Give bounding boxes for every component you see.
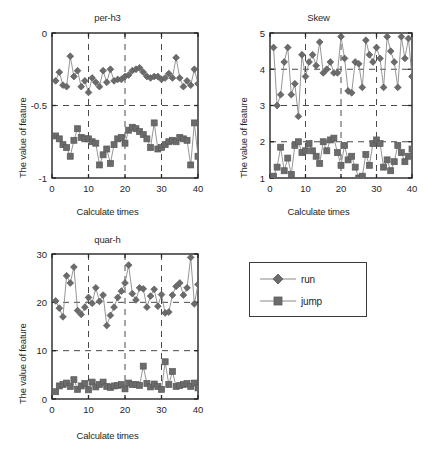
x-tick-label: 40 [193,183,204,194]
diamond-marker [52,297,59,304]
x-tick-label: 40 [407,183,418,194]
chart-panel-quar-h: quar-h The value of feature 010203040010… [0,232,215,450]
square-marker [169,368,175,374]
square-marker [281,168,287,174]
diamond-marker [313,62,320,69]
square-marker [191,120,197,126]
diamond-marker [195,80,202,87]
square-marker [184,137,190,143]
x-tick-label: 10 [300,183,311,194]
figure-container: per-h3 The value of feature 0102030400-0… [0,0,425,458]
diamond-marker [180,83,187,90]
y-tick-label: 30 [36,249,47,260]
square-marker [366,162,372,168]
square-marker [195,153,201,159]
diamond-marker [71,264,78,271]
diamond-marker [103,79,110,86]
square-marker [166,382,172,388]
diamond-marker [125,262,132,269]
square-marker [122,386,128,392]
y-tick-label: -0.5 [31,100,47,111]
square-marker [303,148,309,154]
diamond-marker [284,44,291,51]
diamond-marker [151,286,158,293]
x-axis-label-skew: Calculate times [212,206,425,217]
diamond-marker [302,73,309,80]
diamond-marker [366,51,373,58]
diamond-marker [341,55,348,62]
x-tick-label: 0 [49,404,54,415]
diamond-marker [144,304,151,311]
diamond-marker [380,84,387,91]
square-marker [53,389,59,395]
chart-panel-skew: Skew The value of feature 01020304012345… [212,8,425,226]
diamond-marker [402,55,409,62]
square-marker [122,140,128,146]
diamond-marker [78,83,85,90]
square-marker [151,120,157,126]
plot-area-skew: 01020304012345 [212,8,425,226]
square-marker [71,137,77,143]
diamond-marker [60,313,67,320]
square-marker [148,145,154,151]
legend-entry-run: run [258,272,315,286]
square-marker [317,161,323,167]
diamond-marker [118,288,125,295]
diamond-marker [281,59,288,66]
square-marker [75,126,81,132]
square-marker [352,164,358,170]
series-group [270,33,415,181]
square-marker [363,151,369,157]
diamond-marker [405,35,412,42]
square-marker [100,152,106,158]
square-marker [93,140,99,146]
diamond-marker [169,292,176,299]
square-marker [64,145,70,151]
x-tick-label: 10 [83,404,94,415]
square-marker [388,168,394,174]
y-tick-label: 10 [36,345,47,356]
diamond-marker [63,272,70,279]
square-marker [395,142,401,148]
series-group [52,254,201,395]
diamond-marker [270,44,277,51]
diamond-marker [359,84,366,91]
y-tick-label: 4 [260,64,265,75]
x-axis-label-quar-h: Calculate times [0,430,215,441]
square-marker [159,386,165,392]
legend-entry-jump: jump [258,294,322,308]
x-tick-label: 20 [120,404,131,415]
diamond-marker [384,33,391,40]
x-tick-label: 10 [83,183,94,194]
square-marker [140,363,146,369]
square-marker [338,162,344,168]
diamond-marker [299,51,306,58]
square-marker [118,134,124,140]
diamond-marker [67,280,74,287]
y-tick-label: -1 [39,173,47,184]
diamond-marker [114,294,121,301]
y-tick-label: 0 [42,394,47,405]
series-legend: run jump [249,262,367,317]
square-marker [137,382,143,388]
diamond-marker [316,39,323,46]
square-marker [381,164,387,170]
diamond-marker [154,303,161,310]
square-marker [342,142,348,148]
diamond-marker [85,294,92,301]
diamond-marker [122,280,129,287]
diamond-marker [277,91,284,98]
y-tick-label: 0 [42,28,47,39]
diamond-marker [81,304,88,311]
diamond-marker [89,300,96,307]
diamond-marker [391,59,398,66]
diamond-marker [100,292,107,299]
square-marker [96,162,102,168]
diamond-marker [309,51,316,58]
square-marker [324,148,330,154]
y-tick-label: 1 [260,173,265,184]
square-marker [111,142,117,148]
diamond-marker [92,284,99,291]
square-marker [195,385,201,391]
square-marker [349,153,355,159]
